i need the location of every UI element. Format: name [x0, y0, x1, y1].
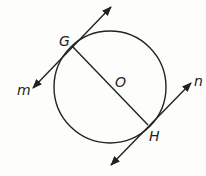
label-m: m: [17, 82, 31, 98]
label-g: G: [59, 33, 70, 49]
geometry-diagram: G H O m n: [0, 0, 206, 176]
label-n: n: [194, 73, 203, 89]
label-h: H: [149, 128, 160, 144]
diameter-gh: [72, 46, 148, 125]
tangent-line-m: [33, 7, 111, 88]
tangent-line-n: [111, 83, 191, 165]
label-o: O: [115, 74, 126, 90]
